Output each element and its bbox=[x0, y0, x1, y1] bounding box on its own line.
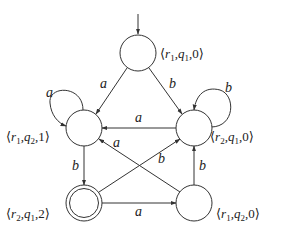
state-label-n3: ⟨r2,q1,2⟩ bbox=[6, 206, 50, 223]
state-node-n1 bbox=[66, 110, 102, 146]
state-node-n4 bbox=[176, 185, 212, 221]
edge-label-n3-n2: b bbox=[158, 151, 165, 166]
state-node-n0 bbox=[120, 35, 156, 71]
edge-label-n4-n2: b bbox=[199, 158, 206, 173]
state-label-n4: ⟨r1,q2,0⟩ bbox=[216, 206, 260, 223]
state-label-n2: ⟨r2,q1,0⟩ bbox=[210, 129, 254, 146]
edge-label-n1-n1: a bbox=[46, 85, 53, 100]
edge-label-n0-n1: a bbox=[100, 76, 107, 91]
edge-label-n2-n2: b bbox=[225, 80, 232, 95]
accepting-inner-ring bbox=[70, 189, 99, 218]
edge-n0-n2 bbox=[149, 68, 182, 114]
edge-label-n0-n2: b bbox=[169, 76, 176, 91]
edge-label-n4-n1: a bbox=[113, 135, 120, 150]
state-label-n1: ⟨r1,q2,1⟩ bbox=[6, 129, 50, 146]
edge-label-n3-n4: a bbox=[135, 204, 142, 219]
state-node-n2 bbox=[176, 110, 212, 146]
automaton-diagram: a b a b a a b b b a ⟨r1,q1,0⟩ ⟨r1,q2,1⟩ … bbox=[0, 0, 282, 237]
edge-n0-n1 bbox=[96, 68, 127, 114]
edge-label-n1-n3: b bbox=[72, 158, 79, 173]
edge-label-n2-n1: a bbox=[135, 110, 142, 125]
state-label-n0: ⟨r1,q1,0⟩ bbox=[160, 46, 204, 63]
